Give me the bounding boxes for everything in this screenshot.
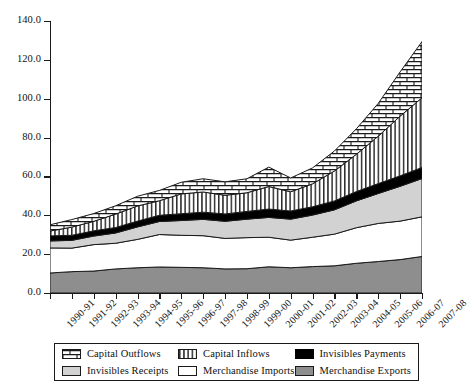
y-axis-tick-label: 140.0 bbox=[17, 14, 41, 25]
x-axis-tick-mark bbox=[181, 293, 182, 299]
legend-item-invisibles-payments[interactable]: Invisibles Payments bbox=[295, 348, 414, 359]
x-axis-tick-mark bbox=[159, 293, 160, 299]
light-gray-swatch-icon bbox=[62, 366, 81, 376]
chart-legend: Capital OutflowsCapital InflowsInvisible… bbox=[54, 343, 419, 381]
legend-label: Merchandise Exports bbox=[320, 365, 411, 376]
black-swatch-icon bbox=[295, 349, 314, 359]
x-axis-tick-mark bbox=[291, 293, 292, 299]
x-axis-tick-mark bbox=[422, 293, 423, 299]
y-axis-tick-label: 80.0 bbox=[22, 131, 41, 142]
x-axis-tick-mark bbox=[94, 293, 95, 299]
legend-item-invisibles-receipts[interactable]: Invisibles Receipts bbox=[62, 365, 178, 376]
y-axis-tick-label: 20.0 bbox=[22, 247, 41, 258]
x-axis-line bbox=[50, 293, 422, 294]
legend-label: Capital Outflows bbox=[87, 348, 161, 359]
brick-swatch-icon bbox=[62, 349, 81, 359]
legend-item-merchandise-imports[interactable]: Merchandise Imports bbox=[178, 365, 294, 376]
x-axis-tick-mark bbox=[378, 293, 379, 299]
legend-label: Invisibles Payments bbox=[320, 348, 406, 359]
mid-gray-swatch-icon bbox=[295, 366, 314, 376]
x-axis-tick-mark bbox=[334, 293, 335, 299]
legend-item-capital-outflows[interactable]: Capital Outflows bbox=[62, 348, 178, 359]
x-axis-tick-mark bbox=[313, 293, 314, 299]
legend-item-capital-inflows[interactable]: Capital Inflows bbox=[178, 348, 294, 359]
plot-area bbox=[50, 21, 422, 293]
y-axis-tick-label: 0.0 bbox=[28, 286, 41, 297]
legend-label: Capital Inflows bbox=[203, 348, 270, 359]
x-axis-tick-mark bbox=[269, 293, 270, 299]
x-axis-tick-mark bbox=[72, 293, 73, 299]
legend-label: Invisibles Receipts bbox=[87, 365, 169, 376]
y-axis-tick-label: 60.0 bbox=[22, 169, 41, 180]
vertical-stripe-swatch-icon bbox=[178, 349, 197, 359]
x-axis-tick-mark bbox=[116, 293, 117, 299]
x-axis-tick-mark bbox=[356, 293, 357, 299]
y-axis-tick-label: 100.0 bbox=[17, 92, 41, 103]
x-axis-tick-mark bbox=[203, 293, 204, 299]
area-series-svg bbox=[50, 21, 422, 293]
y-axis-tick-label: 120.0 bbox=[17, 53, 41, 64]
x-axis-tick-mark bbox=[138, 293, 139, 299]
x-axis-tick-mark bbox=[50, 293, 51, 299]
white-swatch-icon bbox=[178, 366, 197, 376]
legend-item-merchandise-exports[interactable]: Merchandise Exports bbox=[295, 365, 414, 376]
x-axis-tick-mark bbox=[225, 293, 226, 299]
x-axis-tick-mark bbox=[247, 293, 248, 299]
legend-label: Merchandise Imports bbox=[203, 365, 294, 376]
y-axis-tick-label: 40.0 bbox=[22, 208, 41, 219]
x-axis-tick-mark bbox=[400, 293, 401, 299]
